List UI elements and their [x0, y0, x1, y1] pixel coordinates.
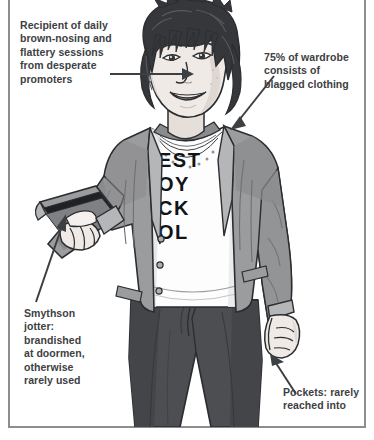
annotation-top-right: 75% of wardrobe consists of blagged clot…: [264, 51, 372, 91]
leader-line-bottom-left: [30, 212, 74, 304]
annotation-bottom-left: Smythson jotter: brandished at doormen, …: [24, 307, 144, 387]
annotation-bottom-right: Pockets: rarely reached into: [283, 386, 374, 413]
svg-text:CK: CK: [158, 197, 190, 219]
svg-text:OY: OY: [158, 173, 190, 195]
figure-trousers: [129, 300, 262, 427]
svg-text:EST: EST: [158, 149, 201, 171]
annotation-top-left: Recipient of daily brown-nosing and flat…: [20, 19, 160, 86]
illustration-frame: EST OY CK OL: [0, 0, 374, 440]
